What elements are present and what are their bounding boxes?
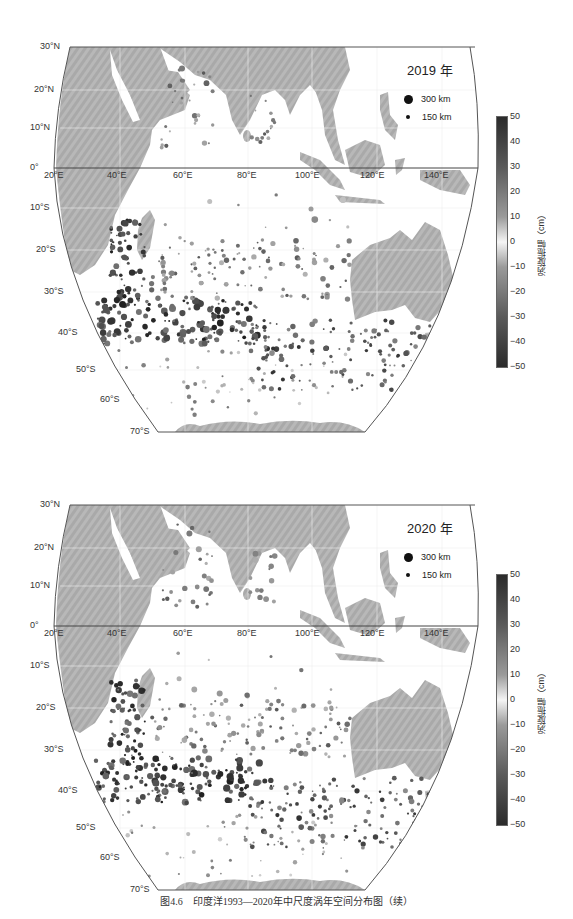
colorbar [496, 116, 508, 368]
colorbar-tick-label: −20 [510, 744, 525, 754]
lon-tick-label: 20°E [44, 170, 64, 180]
colorbar-tick-label: −50 [510, 819, 525, 829]
lat-tick-label: 30°N [40, 41, 60, 51]
map-plot [0, 458, 573, 898]
lon-tick-label: 100°E [295, 170, 320, 180]
size-legend-dot-icon [404, 95, 413, 104]
colorbar-tick-label: 20 [510, 186, 520, 196]
lon-tick-label: 20°E [44, 628, 64, 638]
lat-tick-label: 30°S [44, 744, 64, 754]
year-label: 2020 年 [407, 518, 453, 537]
colorbar-title: 涡旋振幅（cm） [534, 210, 547, 276]
lat-tick-label: 50°S [76, 822, 96, 832]
lat-tick-label: 20°S [36, 702, 56, 712]
size-legend-dot-icon [404, 553, 413, 562]
lon-tick-label: 60°E [173, 628, 193, 638]
lat-tick-label: 0° [30, 620, 39, 630]
lat-tick-label: 10°N [30, 580, 50, 590]
lat-tick-label: 40°S [58, 785, 78, 795]
size-legend-item: 150 km [406, 570, 452, 580]
size-legend-item: 150 km [406, 112, 452, 122]
lon-tick-label: 120°E [360, 628, 385, 638]
colorbar [496, 574, 508, 826]
colorbar-tick-label: 30 [510, 619, 520, 629]
colorbar-tick-label: 10 [510, 211, 520, 221]
size-legend-dot-icon [406, 573, 410, 577]
lon-tick-label: 40°E [107, 170, 127, 180]
colorbar-tick-label: −10 [510, 261, 525, 271]
lon-tick-label: 100°E [295, 628, 320, 638]
colorbar-title: 涡旋振幅（cm） [534, 668, 547, 734]
lon-tick-label: 40°E [107, 628, 127, 638]
lat-tick-label: 20°N [34, 84, 54, 94]
lat-tick-label: 30°S [44, 286, 64, 296]
colorbar-tick-label: 40 [510, 594, 520, 604]
colorbar-tick-label: −30 [510, 769, 525, 779]
size-legend-label: 300 km [421, 552, 451, 562]
lat-tick-label: 0° [30, 162, 39, 172]
colorbar-tick-label: 50 [510, 569, 520, 579]
map-panel-2019: 30°N20°N10°N0°10°S20°S30°S40°S50°S60°S70… [0, 0, 573, 440]
colorbar-tick-label: 0 [510, 694, 515, 704]
lon-tick-label: 80°E [237, 170, 257, 180]
lat-tick-label: 20°N [34, 542, 54, 552]
colorbar-tick-label: 40 [510, 136, 520, 146]
colorbar-tick-label: 30 [510, 161, 520, 171]
colorbar-tick-label: −50 [510, 361, 525, 371]
colorbar-tick-label: −40 [510, 336, 525, 346]
lon-tick-label: 140°E [424, 628, 449, 638]
lat-tick-label: 60°S [100, 852, 120, 862]
lon-tick-label: 80°E [237, 628, 257, 638]
colorbar-tick-label: 20 [510, 644, 520, 654]
lat-tick-label: 10°N [30, 122, 50, 132]
lon-tick-label: 60°E [173, 170, 193, 180]
year-label: 2019 年 [407, 60, 453, 79]
lat-tick-label: 10°S [30, 660, 50, 670]
lat-tick-label: 60°S [100, 394, 120, 404]
lat-tick-label: 70°S [130, 426, 150, 436]
figure-caption: 图4.6 印度洋1993—2020年中尺度涡年空间分布图（续） [0, 893, 573, 908]
colorbar-tick-label: −40 [510, 794, 525, 804]
colorbar-tick-label: 0 [510, 236, 515, 246]
lat-tick-label: 30°N [40, 499, 60, 509]
colorbar-tick-label: −30 [510, 311, 525, 321]
colorbar-tick-label: 10 [510, 669, 520, 679]
size-legend-label: 150 km [422, 570, 452, 580]
size-legend-item: 300 km [404, 94, 451, 104]
size-legend-dot-icon [406, 115, 410, 119]
colorbar-tick-label: 50 [510, 111, 520, 121]
size-legend-item: 300 km [404, 552, 451, 562]
lat-tick-label: 40°S [58, 327, 78, 337]
lon-tick-label: 140°E [424, 170, 449, 180]
lat-tick-label: 10°S [30, 202, 50, 212]
colorbar-tick-label: −10 [510, 719, 525, 729]
colorbar-tick-label: −20 [510, 286, 525, 296]
lat-tick-label: 20°S [36, 244, 56, 254]
map-panel-2020: 30°N20°N10°N0°10°S20°S30°S40°S50°S60°S70… [0, 458, 573, 898]
lon-tick-label: 120°E [360, 170, 385, 180]
size-legend-label: 150 km [422, 112, 452, 122]
map-plot [0, 0, 573, 440]
size-legend-label: 300 km [421, 94, 451, 104]
lat-tick-label: 50°S [76, 364, 96, 374]
